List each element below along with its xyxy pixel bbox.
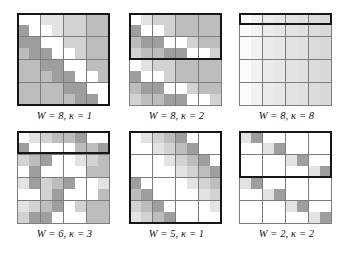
matrix-cell xyxy=(130,201,141,212)
matrix-cell xyxy=(41,189,52,200)
matrix-cell xyxy=(297,37,308,48)
matrix-cell xyxy=(199,60,210,71)
matrix-cell xyxy=(297,25,308,36)
matrix-cell xyxy=(75,189,86,200)
matrix-cell xyxy=(41,25,52,36)
matrix-cell xyxy=(75,201,86,212)
matrix-cell xyxy=(87,37,98,48)
matrix-cell xyxy=(263,83,274,94)
matrix-cell xyxy=(141,48,152,59)
matrix-cell xyxy=(210,166,221,177)
matrix-cell xyxy=(251,189,262,200)
matrix-cell xyxy=(210,14,221,25)
matrix-cell xyxy=(64,143,75,154)
matrix-cell xyxy=(320,48,331,59)
matrix-cell xyxy=(87,71,98,82)
matrix-cell xyxy=(199,178,210,189)
panel-caption-2: W = 8, κ = 8 xyxy=(239,110,334,121)
matrix-cell xyxy=(130,14,141,25)
matrix-cell xyxy=(18,25,29,36)
matrix-cell xyxy=(153,189,164,200)
matrix-cell xyxy=(320,189,331,200)
matrix-cell xyxy=(164,60,175,71)
matrix-cell xyxy=(297,178,308,189)
matrix-cell xyxy=(274,178,285,189)
matrix-cell xyxy=(199,155,210,166)
matrix-grid-0 xyxy=(17,13,110,106)
matrix-cell xyxy=(164,178,175,189)
matrix-cell xyxy=(153,143,164,154)
matrix-cell xyxy=(64,189,75,200)
matrix-cell xyxy=(320,60,331,71)
matrix-cell xyxy=(274,212,285,223)
matrix-cell xyxy=(309,83,320,94)
matrix-cell xyxy=(87,25,98,36)
matrix-cell xyxy=(98,94,109,105)
matrix-cell xyxy=(52,166,63,177)
panel-caption-1: W = 8, κ = 2 xyxy=(129,110,224,121)
matrix-cell xyxy=(52,71,63,82)
matrix-cell xyxy=(153,60,164,71)
matrix-cell xyxy=(309,189,320,200)
matrix-cell xyxy=(29,189,40,200)
matrix-cell xyxy=(164,25,175,36)
matrix-cell xyxy=(286,132,297,143)
matrix-cell xyxy=(176,25,187,36)
matrix-cell xyxy=(251,178,262,189)
matrix-cell xyxy=(187,166,198,177)
matrix-cell xyxy=(309,201,320,212)
matrix-cell xyxy=(130,94,141,105)
matrix-cell xyxy=(263,178,274,189)
matrix-cell xyxy=(240,143,251,154)
matrix-cell xyxy=(18,178,29,189)
matrix-cell xyxy=(164,189,175,200)
matrix-cell xyxy=(263,189,274,200)
matrix-cell xyxy=(240,166,251,177)
matrix-cell xyxy=(41,48,52,59)
matrix-cell xyxy=(274,132,285,143)
matrix-wrap-2 xyxy=(239,13,332,106)
matrix-cell xyxy=(320,212,331,223)
matrix-cell xyxy=(64,155,75,166)
matrix-cell xyxy=(251,132,262,143)
matrix-cell xyxy=(41,37,52,48)
matrix-cell xyxy=(141,143,152,154)
matrix-cell xyxy=(320,166,331,177)
matrix-cell xyxy=(286,37,297,48)
matrix-cell xyxy=(240,94,251,105)
matrix-cell xyxy=(141,37,152,48)
matrix-cell xyxy=(297,189,308,200)
matrix-cell xyxy=(87,48,98,59)
matrix-cell xyxy=(263,60,274,71)
matrix-cell xyxy=(29,37,40,48)
matrix-cell xyxy=(274,48,285,59)
matrix-cell xyxy=(153,48,164,59)
matrix-cell xyxy=(297,201,308,212)
matrix-cell xyxy=(29,48,40,59)
matrix-cell xyxy=(98,201,109,212)
matrix-cell xyxy=(87,155,98,166)
matrix-panel-0: W = 8, κ = 1 xyxy=(17,13,112,121)
matrix-cell xyxy=(320,71,331,82)
matrix-cell xyxy=(263,143,274,154)
matrix-cell xyxy=(130,178,141,189)
matrix-cell xyxy=(286,201,297,212)
matrix-cell xyxy=(130,83,141,94)
matrix-cell xyxy=(98,25,109,36)
matrix-cell xyxy=(176,166,187,177)
matrix-cell xyxy=(240,132,251,143)
matrix-cell xyxy=(187,71,198,82)
matrix-cell xyxy=(75,212,86,223)
matrix-cell xyxy=(64,166,75,177)
matrix-cell xyxy=(130,189,141,200)
matrix-cell xyxy=(29,94,40,105)
matrix-cell xyxy=(141,25,152,36)
matrix-cell xyxy=(75,60,86,71)
matrix-cell xyxy=(29,178,40,189)
matrix-cell xyxy=(309,166,320,177)
matrix-cell xyxy=(297,71,308,82)
matrix-cell xyxy=(41,132,52,143)
attention-mask-figure: W = 8, κ = 1W = 8, κ = 2W = 8, κ = 8W = … xyxy=(0,0,351,253)
matrix-cell xyxy=(320,37,331,48)
matrix-cell xyxy=(199,189,210,200)
